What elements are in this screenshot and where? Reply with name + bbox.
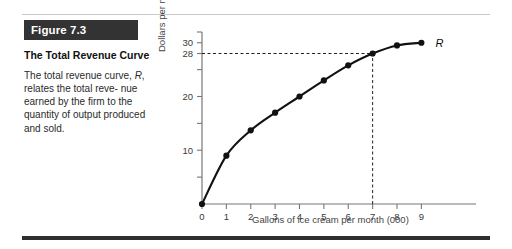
y-tick-label: 10: [182, 145, 193, 156]
y-tick-label: 20: [182, 91, 193, 102]
x-tick-label: 7: [370, 211, 375, 222]
data-point: [199, 201, 205, 207]
bottom-divider: [22, 236, 490, 240]
x-tick-label: 8: [394, 211, 399, 222]
data-point: [296, 93, 302, 99]
data-point: [345, 62, 351, 68]
plot-svg: 102028300123456789R: [160, 16, 500, 231]
x-tick-label: 0: [199, 211, 204, 222]
figure-caption-text: The total revenue curve, R, relates the …: [24, 69, 150, 135]
x-tick-label: 9: [419, 211, 424, 222]
x-tick-label: 6: [346, 211, 351, 222]
caption-line-1: The total revenue curve,: [24, 70, 132, 81]
caption-symbol-r: R: [135, 70, 142, 81]
x-tick-label: 1: [224, 211, 229, 222]
chart-plot: Dollars per month (000) Gallons of ice c…: [160, 16, 500, 231]
data-point: [248, 127, 254, 133]
x-tick-label: 3: [272, 211, 277, 222]
y-tick-label: 30: [182, 37, 193, 48]
y-tick-label: 28: [182, 48, 193, 59]
series-label-r: R: [435, 37, 443, 49]
figure-container: Figure 7.3 The Total Revenue Curve The t…: [0, 0, 512, 249]
figure-number-badge: Figure 7.3: [24, 20, 138, 40]
data-point: [272, 110, 278, 116]
data-point: [370, 50, 376, 56]
top-divider: [22, 14, 490, 15]
revenue-curve: [202, 43, 421, 204]
x-tick-label: 5: [321, 211, 326, 222]
data-point: [418, 40, 424, 46]
caption-column: Figure 7.3 The Total Revenue Curve The t…: [24, 20, 154, 135]
x-tick-label: 2: [248, 211, 253, 222]
data-point: [321, 77, 327, 83]
data-point: [394, 42, 400, 48]
figure-title: The Total Revenue Curve: [24, 49, 154, 62]
x-tick-label: 4: [297, 211, 302, 222]
data-point: [223, 153, 229, 159]
